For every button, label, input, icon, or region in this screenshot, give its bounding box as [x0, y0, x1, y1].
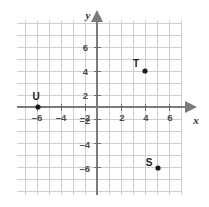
point-marker-t [142, 68, 147, 73]
coordinate-plane-figure: –6 –4 –2 2 4 6 6 4 2 –2 –4 –6 x y T S [0, 0, 209, 207]
point-label-u: U [32, 91, 39, 102]
y-tick-label-neg4: –4 [79, 139, 90, 150]
point-marker-u [35, 104, 40, 109]
point-marker-s [155, 165, 160, 170]
y-tick-label-pos4: 4 [83, 66, 89, 77]
x-axis-arrow-icon [185, 101, 197, 113]
x-tick-label-pos2: 2 [119, 112, 124, 123]
y-tick-label-neg2: –2 [79, 115, 90, 126]
x-axis-tick-labels: –6 –4 –2 2 4 6 [32, 112, 173, 123]
x-tick-label-pos6: 6 [167, 112, 172, 123]
x-tick-label-neg6: –6 [32, 112, 43, 123]
point-label-t: T [133, 58, 139, 69]
coordinate-plane-svg: –6 –4 –2 2 4 6 6 4 2 –2 –4 –6 x y T S [0, 0, 209, 207]
y-tick-label-pos6: 6 [83, 42, 88, 53]
x-axis-label: x [192, 114, 199, 126]
x-tick-label-neg4: –4 [56, 112, 67, 123]
y-axis-label: y [84, 9, 91, 21]
y-tick-label-pos2: 2 [83, 90, 88, 101]
point-label-s: S [146, 157, 153, 168]
y-tick-label-neg6: –6 [79, 163, 90, 174]
x-tick-label-pos4: 4 [143, 112, 149, 123]
y-axis-arrow-icon [91, 10, 103, 22]
plotted-point-s: S [146, 157, 161, 171]
